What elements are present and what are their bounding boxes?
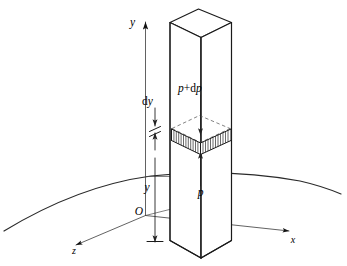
label-axis-y: y [129, 16, 136, 29]
label-axis-z: z [71, 245, 76, 256]
label-pressure-top: p+dp [177, 82, 202, 95]
axis-z-line [76, 216, 146, 246]
label-pressure-top-p2: p [195, 82, 202, 95]
label-origin: O [135, 205, 144, 217]
figure-root: y x z O y dy p+dp p [0, 0, 347, 266]
label-axis-x: x [290, 234, 296, 245]
dy-break-tick-upper [150, 127, 161, 132]
y-height-dimension [147, 158, 163, 242]
label-pressure-bottom: p [197, 186, 204, 199]
label-dy-y: y [147, 95, 154, 108]
physics-diagram-svg: y x z O y dy p+dp p [0, 0, 347, 266]
label-height-y: y [143, 181, 150, 194]
label-dy: dy [142, 95, 154, 108]
dy-dimension [150, 108, 161, 150]
